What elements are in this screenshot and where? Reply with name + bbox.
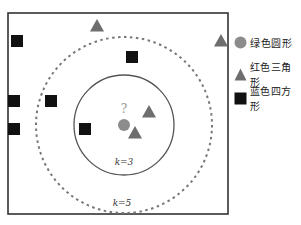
triangle-icon [234, 68, 247, 81]
square-point [8, 95, 20, 107]
k5-label: k=5 [113, 198, 132, 208]
legend-label: 蓝色四方形 [250, 83, 301, 113]
triangle-point [214, 34, 228, 47]
square-point [8, 123, 20, 135]
square-point [126, 51, 138, 63]
legend-item-square: 蓝色四方形 [234, 83, 301, 113]
plot-border [8, 13, 228, 214]
query-label: ? [121, 102, 127, 116]
k3-label: k=3 [115, 157, 134, 167]
legend-label: 绿色圆形 [250, 35, 292, 50]
legend-item-circle: 绿色圆形 [234, 35, 292, 50]
triangle-point [90, 19, 104, 32]
square-point [45, 95, 57, 107]
square-point [11, 35, 23, 47]
query-point [118, 119, 130, 131]
square-icon [234, 92, 247, 105]
triangle-point [128, 126, 142, 139]
circle-icon [234, 36, 247, 49]
triangle-point [142, 105, 156, 118]
square-point [79, 123, 91, 135]
points-layer [8, 19, 228, 139]
